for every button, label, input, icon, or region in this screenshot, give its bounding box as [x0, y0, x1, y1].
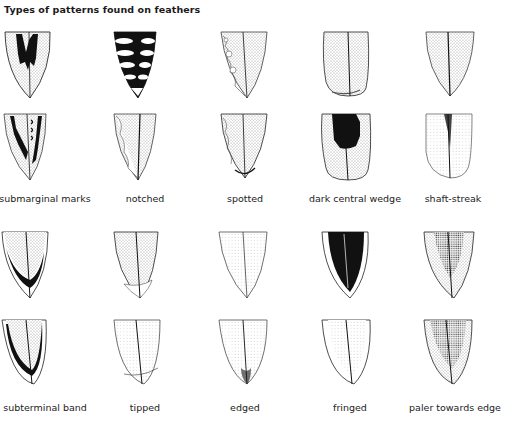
- label-paler-towards-edge: paler towards edge: [400, 402, 505, 413]
- feather-shaft-streak-a: [420, 30, 490, 100]
- feather-shaft-streak-b: [420, 112, 490, 182]
- feather-subterminal-band-a: [0, 230, 70, 300]
- label-edged: edged: [190, 402, 300, 413]
- feather-spotted-b: [215, 112, 285, 182]
- label-dark-central-wedge: dark central wedge: [300, 193, 410, 204]
- label-tipped: tipped: [90, 402, 200, 413]
- label-fringed: fringed: [295, 402, 405, 413]
- feather-notched-a: [110, 30, 180, 100]
- feather-tipped-b: [110, 318, 180, 388]
- diagram-title: Types of patterns found on feathers: [4, 4, 200, 15]
- feather-dark-central-wedge-b: [318, 112, 388, 182]
- label-submarginal-marks: submarginal marks: [0, 193, 100, 204]
- feather-edged-b: [215, 318, 285, 388]
- feather-fringed-a: [318, 230, 388, 300]
- feather-notched-b: [110, 112, 180, 182]
- feather-dark-central-wedge-a: [318, 30, 388, 100]
- label-spotted: spotted: [190, 193, 300, 204]
- feather-edged-a: [215, 230, 285, 300]
- feather-subterminal-band-b: [0, 318, 70, 388]
- feather-submarginal-marks-b: [0, 112, 70, 182]
- feather-paler-towards-edge-b: [420, 318, 490, 388]
- feather-paler-towards-edge-a: [420, 230, 490, 300]
- feather-spotted-a: [215, 30, 285, 100]
- feather-tipped-a: [110, 230, 180, 300]
- label-subterminal-band: subterminal band: [0, 402, 100, 413]
- feather-fringed-b: [318, 318, 388, 388]
- feather-submarginal-marks-a: [0, 30, 70, 100]
- label-shaft-streak: shaft-streak: [398, 193, 505, 204]
- label-notched: notched: [90, 193, 200, 204]
